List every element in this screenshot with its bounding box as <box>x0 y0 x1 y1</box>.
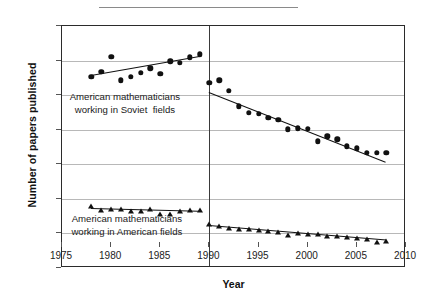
series-annotation-label: American mathematicians working in Ameri… <box>47 212 207 239</box>
data-point-marker <box>207 80 212 85</box>
y-axis-tick-mark <box>56 129 61 130</box>
y-axis-tick-mark <box>56 94 61 95</box>
data-point-marker <box>315 139 320 144</box>
period-divider-1990 <box>209 26 210 266</box>
data-point-marker <box>118 78 123 83</box>
series-annotation-label: American mathematicians working in Sovie… <box>45 90 205 117</box>
x-axis-tick-mark <box>159 242 160 247</box>
trend-line <box>91 56 199 76</box>
gridline <box>62 61 404 62</box>
y-axis-tick-mark <box>56 267 61 268</box>
gridline <box>62 164 404 165</box>
x-axis-tick-label: 1975 <box>38 250 84 261</box>
data-point-marker <box>217 78 222 83</box>
x-axis-tick-label: 2005 <box>333 250 379 261</box>
data-point-marker <box>128 74 133 79</box>
plot-area: American mathematicians working in Sovie… <box>61 25 405 267</box>
top-divider-rule <box>99 7 298 8</box>
data-point-marker <box>285 126 290 131</box>
x-axis-tick-mark <box>356 242 357 247</box>
x-axis-tick-label: 1980 <box>87 250 133 261</box>
data-point-marker <box>138 70 143 75</box>
x-axis-tick-mark <box>405 242 406 247</box>
gridline <box>62 199 404 200</box>
x-axis-tick-label: 2000 <box>284 250 330 261</box>
data-point-marker <box>158 71 163 76</box>
y-axis-tick-mark <box>56 198 61 199</box>
data-point-marker <box>246 110 251 115</box>
data-point-marker <box>374 150 379 155</box>
data-point-marker <box>285 233 291 238</box>
x-axis-tick-label: 2010 <box>382 250 426 261</box>
data-point-marker <box>148 66 153 71</box>
y-axis-title: Number of papers published <box>26 10 38 260</box>
x-axis-tick-mark <box>208 242 209 247</box>
x-axis-tick-label: 1985 <box>136 250 182 261</box>
x-axis-tick-mark <box>61 242 62 247</box>
x-axis-tick-label: 1995 <box>235 250 281 261</box>
x-axis-tick-mark <box>258 242 259 247</box>
data-point-marker <box>226 88 231 93</box>
x-axis-tick-mark <box>110 242 111 247</box>
y-axis-tick-mark <box>56 163 61 164</box>
x-axis-tick-label: 1990 <box>185 250 231 261</box>
chart-figure: Number of papers published Year American… <box>0 0 426 296</box>
trend-line <box>209 92 386 163</box>
x-axis-title: Year <box>61 278 406 290</box>
gridline <box>62 130 404 131</box>
x-axis-tick-mark <box>307 242 308 247</box>
data-point-marker <box>384 150 389 155</box>
data-point-marker <box>177 60 182 65</box>
y-axis-tick-mark <box>56 232 61 233</box>
y-axis-tick-mark <box>56 25 61 26</box>
data-point-marker <box>108 54 113 59</box>
y-axis-tick-mark <box>56 60 61 61</box>
